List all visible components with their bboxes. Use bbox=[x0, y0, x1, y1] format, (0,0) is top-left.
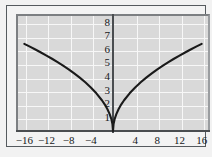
y-axis-tick-label: 6 bbox=[96, 44, 110, 55]
series-line-sqrt-abs-x bbox=[24, 44, 201, 131]
curve-layer bbox=[16, 14, 210, 131]
y-axis-tick-label: 1 bbox=[96, 112, 110, 123]
y-axis-tick-label: 4 bbox=[96, 71, 110, 82]
x-axis-tick-label: −4 bbox=[78, 135, 104, 146]
y-axis-tick-label: 2 bbox=[96, 98, 110, 109]
y-axis-tick-label: 5 bbox=[96, 57, 110, 68]
y-axis-tick-label: 3 bbox=[96, 85, 110, 96]
y-axis-tick-label: 8 bbox=[96, 17, 110, 28]
y-axis-tick-label: 7 bbox=[96, 30, 110, 41]
chart-screenshot: 12345678 −16−12−8−4481216 bbox=[0, 0, 212, 157]
figure-frame: 12345678 −16−12−8−4481216 bbox=[6, 5, 206, 147]
x-axis-tick-label: 16 bbox=[189, 135, 212, 146]
